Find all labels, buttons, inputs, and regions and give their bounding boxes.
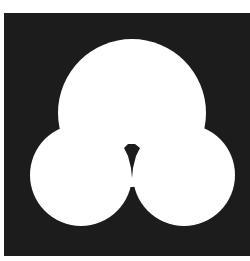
trefoil-shape bbox=[0, 0, 250, 261]
left-circle bbox=[30, 124, 132, 226]
right-circle bbox=[133, 124, 235, 226]
